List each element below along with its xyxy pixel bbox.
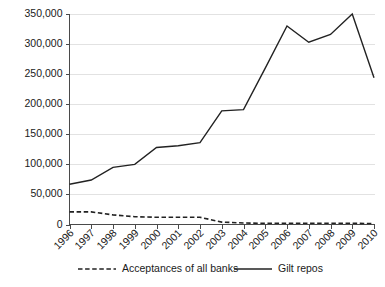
x-axis-tick-label: 2007 [290, 226, 315, 251]
x-axis-tick-label: 2006 [268, 226, 293, 251]
y-axis-tick-marks [66, 15, 70, 226]
legend-label: Gilt repos [278, 262, 323, 274]
x-axis-tick-label: 1999 [116, 226, 141, 251]
data-series-group [70, 14, 375, 224]
x-axis-tick-label: 2008 [312, 226, 337, 251]
y-axis-tick-label: 100,000 [25, 157, 63, 169]
x-axis-tick-label: 2005 [246, 226, 271, 251]
y-axis-tick-label: 0 [57, 218, 63, 230]
chart-legend: Acceptances of all banksGilt repos [78, 262, 323, 274]
x-axis-tick-label: 2010 [355, 226, 380, 251]
x-axis-tick-label: 2004 [225, 226, 250, 251]
y-axis-tick-label: 50,000 [30, 187, 62, 199]
legend-label: Acceptances of all banks [122, 262, 238, 274]
x-axis-labels: 1996199719981999200020012002200320042005… [51, 226, 380, 251]
x-axis-tick-label: 2009 [333, 226, 358, 251]
x-axis-tick-label: 1998 [94, 226, 119, 251]
x-axis-tick-label: 2001 [159, 226, 184, 251]
y-axis-tick-label: 200,000 [25, 97, 63, 109]
x-axis-tick-label: 2002 [181, 226, 206, 251]
line-chart: 050,000100,000150,000200,000250,000300,0… [0, 0, 385, 287]
x-axis-tick-label: 1996 [51, 226, 76, 251]
series-line-acceptances-of-all-banks [70, 212, 375, 224]
y-axis-tick-label: 150,000 [25, 127, 63, 139]
x-axis-tick-label: 2003 [203, 226, 228, 251]
y-axis-tick-label: 250,000 [25, 67, 63, 79]
y-axis-labels: 050,000100,000150,000200,000250,000300,0… [25, 7, 63, 230]
y-axis-tick-label: 300,000 [25, 37, 63, 49]
y-axis-tick-label: 350,000 [25, 7, 63, 19]
chart-canvas: 050,000100,000150,000200,000250,000300,0… [0, 0, 385, 287]
x-axis-tick-label: 1997 [72, 226, 97, 251]
x-axis-tick-label: 2000 [138, 226, 163, 251]
series-line-gilt-repos [70, 14, 375, 184]
